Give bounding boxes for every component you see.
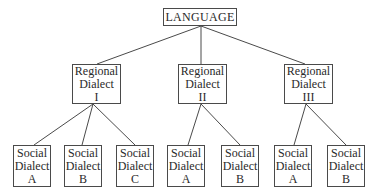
regional-line1: Regional: [287, 65, 330, 78]
social-letter: C: [131, 173, 139, 186]
social-letter: B: [342, 173, 350, 186]
social-dialect-iii-a-node: Social Dialect A: [274, 145, 312, 187]
social-line2: Dialect: [223, 160, 258, 173]
social-letter: B: [79, 173, 87, 186]
social-letter: A: [28, 173, 37, 186]
social-dialect-ii-a-node: Social Dialect A: [167, 145, 205, 187]
social-letter: A: [182, 173, 191, 186]
social-dialect-i-a-node: Social Dialect A: [13, 145, 51, 187]
regional-numeral: II: [199, 91, 207, 104]
social-line2: Dialect: [329, 160, 364, 173]
social-line2: Dialect: [118, 160, 153, 173]
regional-dialect-ii-node: Regional Dialect II: [178, 64, 227, 104]
social-dialect-ii-b-node: Social Dialect B: [221, 145, 259, 187]
social-line2: Dialect: [169, 160, 204, 173]
language-label: LANGUAGE: [165, 11, 234, 24]
social-dialect-i-c-node: Social Dialect C: [116, 145, 154, 187]
regional-line2: Dialect: [185, 78, 220, 91]
regional-dialect-i-node: Regional Dialect I: [72, 64, 121, 104]
social-line1: Social: [120, 147, 150, 160]
regional-numeral: I: [95, 91, 99, 104]
social-line1: Social: [17, 147, 47, 160]
social-line2: Dialect: [276, 160, 311, 173]
regional-line2: Dialect: [291, 78, 326, 91]
social-line2: Dialect: [66, 160, 101, 173]
social-line1: Social: [278, 147, 308, 160]
social-letter: A: [289, 173, 298, 186]
regional-line1: Regional: [75, 65, 118, 78]
social-line1: Social: [171, 147, 201, 160]
social-line2: Dialect: [15, 160, 50, 173]
regional-line2: Dialect: [79, 78, 114, 91]
regional-line1: Regional: [181, 65, 224, 78]
social-line1: Social: [331, 147, 361, 160]
social-line1: Social: [225, 147, 255, 160]
social-dialect-iii-b-node: Social Dialect B: [327, 145, 365, 187]
social-line1: Social: [68, 147, 98, 160]
social-dialect-i-b-node: Social Dialect B: [64, 145, 102, 187]
social-letter: B: [236, 173, 244, 186]
language-node: LANGUAGE: [163, 8, 237, 26]
regional-dialect-iii-node: Regional Dialect III: [284, 64, 333, 104]
regional-numeral: III: [303, 91, 315, 104]
